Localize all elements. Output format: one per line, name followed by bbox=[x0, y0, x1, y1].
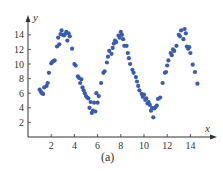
data-point bbox=[114, 40, 118, 44]
data-point bbox=[78, 81, 82, 85]
data-point bbox=[97, 94, 101, 98]
y-tick-label: 14 bbox=[14, 29, 24, 40]
data-point bbox=[136, 84, 140, 88]
data-point bbox=[87, 106, 91, 110]
data-point bbox=[165, 63, 169, 67]
x-tick-label: 4 bbox=[72, 140, 77, 151]
y-tick-label: 2 bbox=[19, 117, 24, 128]
data-point bbox=[191, 63, 195, 67]
data-point bbox=[46, 81, 50, 85]
data-point bbox=[99, 81, 103, 85]
data-point bbox=[174, 44, 178, 48]
data-point bbox=[103, 69, 107, 73]
x-tick-label: 12 bbox=[162, 140, 172, 151]
data-point bbox=[158, 96, 162, 100]
data-point bbox=[65, 39, 69, 43]
data-point bbox=[195, 82, 199, 86]
data-point bbox=[183, 27, 187, 31]
x-tick-label: 10 bbox=[139, 140, 149, 151]
data-point bbox=[127, 56, 131, 60]
data-point bbox=[151, 115, 155, 119]
data-point bbox=[93, 109, 97, 113]
data-point bbox=[86, 96, 90, 100]
data-point bbox=[111, 46, 115, 50]
data-point bbox=[132, 71, 136, 75]
data-point bbox=[172, 49, 176, 53]
data-point bbox=[178, 34, 182, 38]
data-points bbox=[38, 27, 200, 120]
data-point bbox=[70, 47, 74, 51]
x-tick-label: 6 bbox=[95, 140, 100, 151]
data-point bbox=[164, 70, 168, 74]
data-point bbox=[170, 53, 174, 57]
data-point bbox=[155, 104, 159, 108]
data-point bbox=[184, 31, 188, 35]
y-tick-label: 4 bbox=[19, 102, 24, 113]
data-point bbox=[109, 52, 113, 56]
data-point bbox=[126, 51, 130, 55]
data-point bbox=[68, 34, 72, 38]
data-point bbox=[79, 77, 83, 81]
data-point bbox=[57, 42, 61, 46]
x-tick-label: 14 bbox=[185, 140, 195, 151]
x-axis-label: x bbox=[204, 122, 210, 134]
data-point bbox=[96, 101, 100, 105]
data-point bbox=[121, 37, 125, 41]
y-tick-label: 6 bbox=[19, 88, 24, 99]
data-point bbox=[125, 44, 129, 48]
data-point bbox=[41, 92, 45, 96]
data-point bbox=[142, 93, 146, 97]
data-point bbox=[53, 58, 57, 62]
data-point bbox=[128, 62, 132, 66]
data-point bbox=[89, 100, 93, 104]
y-tick-label: 10 bbox=[14, 59, 24, 70]
data-point bbox=[181, 37, 185, 41]
data-point bbox=[74, 63, 78, 67]
data-point bbox=[106, 55, 110, 59]
y-axis-label: y bbox=[32, 11, 38, 23]
x-axis-arrow-icon bbox=[210, 135, 217, 140]
data-point bbox=[193, 70, 197, 74]
data-point bbox=[137, 88, 141, 92]
y-axis-arrow-icon bbox=[26, 15, 31, 22]
data-point bbox=[56, 36, 60, 40]
x-tick-label: 8 bbox=[118, 140, 123, 151]
data-point bbox=[187, 45, 191, 49]
x-tick-label: 2 bbox=[49, 140, 54, 151]
data-point bbox=[188, 51, 192, 55]
data-point bbox=[144, 96, 148, 100]
data-point bbox=[120, 33, 124, 37]
y-tick-label: 8 bbox=[19, 73, 24, 84]
figure-caption: (a) bbox=[101, 150, 114, 165]
data-point bbox=[135, 79, 139, 83]
y-tick-label: 12 bbox=[14, 44, 24, 55]
data-point bbox=[134, 75, 138, 79]
data-point bbox=[105, 60, 109, 64]
data-point bbox=[166, 58, 170, 62]
data-point bbox=[60, 28, 64, 32]
data-point bbox=[47, 71, 51, 75]
data-point bbox=[161, 81, 165, 85]
